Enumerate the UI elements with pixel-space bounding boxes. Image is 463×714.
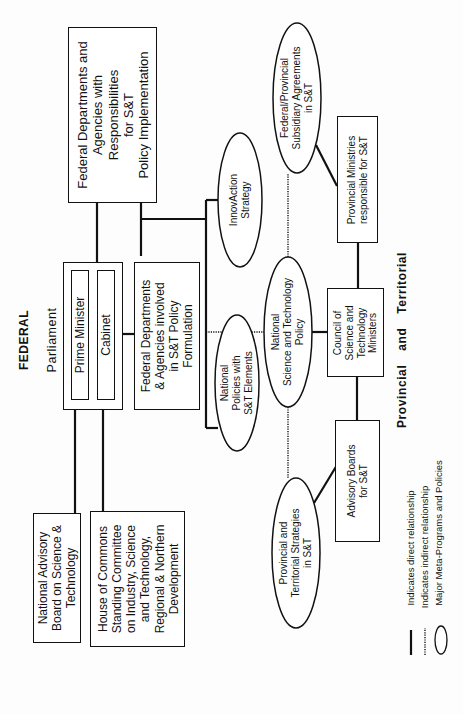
- legend-indirect-label: Indicates indirect relationship: [418, 468, 432, 625]
- prime-minister-box: Prime Minister: [71, 270, 89, 400]
- national-st-policy-ellipse: National Science and Technology Policy: [264, 257, 312, 407]
- fed-prov-agreements-ellipse: Federal/Provincial Subsidiary Agreements…: [273, 23, 321, 173]
- cabinet-box: Cabinet: [97, 270, 115, 400]
- national-advisory-board-box: National Advisory Board on Science & Tec…: [33, 513, 81, 643]
- parliament-label: Parliament: [42, 280, 62, 400]
- diagram-canvas: FEDERAL Parliament Federal Departments a…: [0, 0, 463, 714]
- house-of-commons-text: House of Commons Standing Committee on I…: [95, 525, 180, 634]
- fed-formulation-box: Federal Departments & Agencies involved …: [134, 262, 200, 410]
- prov-terr-strategies-ellipse: Provincial and Territorial Strategies in…: [272, 478, 320, 628]
- legend-meta-label: Major Meta-Programs and Policies: [432, 440, 446, 625]
- fed-formulation-text: Federal Departments & Agencies involved …: [139, 280, 196, 393]
- legend-ellipse-icon: [435, 626, 447, 654]
- council-box: Council of Science and Technology Minist…: [327, 288, 384, 377]
- fed-implementation-text: Federal Departments and Agencies with Re…: [74, 41, 151, 188]
- innovaction-ellipse: InnovAction Strategy: [218, 133, 262, 267]
- legend-direct-label: Indicates direct relationship: [404, 470, 418, 625]
- advisory-boards-box: Advisory Boards for S&T: [335, 420, 380, 542]
- national-advisory-board-text: National Advisory Board on Science & Tec…: [36, 525, 78, 631]
- national-policies-ellipse: National Policies with S&T Elements: [215, 315, 259, 451]
- fed-implementation-box: Federal Departments and Agencies with Re…: [68, 27, 157, 203]
- provincial-territorial-heading: Provincial and Territorial: [390, 240, 414, 440]
- provincial-ministries-box: Provincial Ministries responsible for S&…: [337, 116, 378, 243]
- house-of-commons-box: House of Commons Standing Committee on I…: [90, 511, 185, 647]
- federal-heading: FEDERAL: [14, 290, 34, 390]
